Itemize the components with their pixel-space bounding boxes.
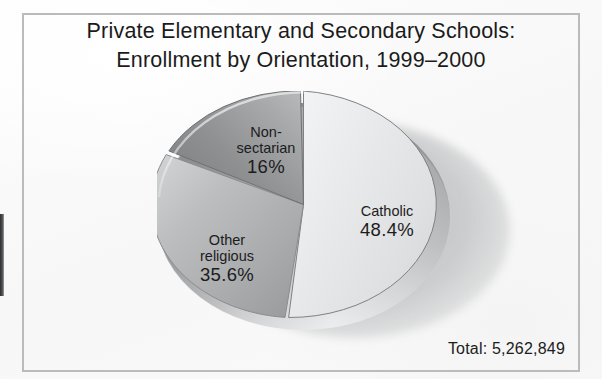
pie-label-other-religious-name-2: religious	[172, 248, 282, 264]
pie-label-nonsectarian-name-1: Non-	[218, 124, 314, 140]
total-enrollment-note: Total: 5,262,849	[380, 340, 565, 358]
pie-label-nonsectarian-percent: 16%	[218, 157, 314, 178]
pie-label-other-religious-name-1: Other	[172, 232, 282, 248]
pie-label-other-religious-percent: 35.6%	[172, 265, 282, 286]
pie-label-catholic-percent: 48.4%	[327, 220, 447, 241]
pie-chart: Catholic 48.4% Non- sectarian 16% Other …	[0, 0, 602, 379]
pie-label-catholic-name: Catholic	[327, 203, 447, 219]
pie-label-other-religious: Other religious 35.6%	[172, 232, 282, 286]
pie-label-catholic: Catholic 48.4%	[327, 203, 447, 241]
pie-label-nonsectarian: Non- sectarian 16%	[218, 124, 314, 178]
pie-label-nonsectarian-name-2: sectarian	[218, 140, 314, 156]
chart-figure: Private Elementary and Secondary Schools…	[0, 0, 602, 379]
